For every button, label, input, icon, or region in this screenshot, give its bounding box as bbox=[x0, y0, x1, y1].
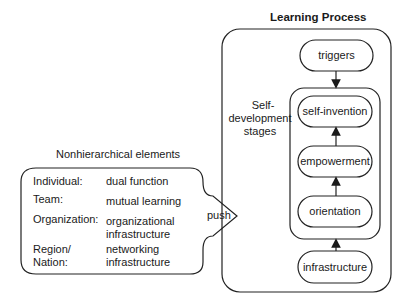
learning-process-title: Learning Process bbox=[270, 11, 367, 24]
row-region-value-line1: networking bbox=[106, 243, 170, 256]
row-team-value: mutual learning bbox=[106, 195, 181, 208]
row-organization-level: Organization: bbox=[33, 213, 98, 226]
side-label-line2: development bbox=[227, 112, 293, 125]
self-development-stages-label: Self- development stages bbox=[227, 99, 293, 138]
row-region-level-line1: Region/ bbox=[33, 243, 71, 256]
row-region-value-line2: infrastructure bbox=[106, 256, 170, 269]
row-region-value: networking infrastructure bbox=[106, 243, 170, 269]
side-label-line3: stages bbox=[227, 125, 293, 138]
side-label-line1: Self- bbox=[233, 99, 293, 112]
row-organization-value-line2: infrastructure bbox=[106, 228, 175, 241]
push-label: push bbox=[207, 209, 231, 222]
row-individual-level: Individual: bbox=[33, 175, 83, 188]
row-individual-value: dual function bbox=[106, 175, 168, 188]
row-region-level: Region/ Nation: bbox=[33, 243, 71, 269]
nonhierarchical-title: Nonhierarchical elements bbox=[56, 148, 180, 161]
node-label-empowerment: empowerment bbox=[298, 155, 372, 168]
node-label-orientation: orientation bbox=[298, 205, 372, 218]
node-label-infrastructure: infrastructure bbox=[298, 261, 372, 274]
row-organization-value: organizational infrastructure bbox=[106, 215, 175, 241]
row-team-level: Team: bbox=[33, 193, 63, 206]
row-organization-value-line1: organizational bbox=[106, 215, 175, 228]
row-region-level-line2: Nation: bbox=[33, 256, 71, 269]
node-label-self-invention: self-invention bbox=[298, 105, 372, 118]
node-label-triggers: triggers bbox=[300, 49, 373, 62]
